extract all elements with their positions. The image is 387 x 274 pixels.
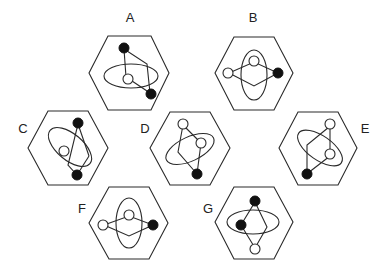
- open-circle: [250, 244, 260, 254]
- open-circle: [98, 220, 108, 230]
- ellipse-c: [42, 120, 99, 173]
- panel-b: B: [215, 10, 293, 110]
- panel-label-a: A: [126, 10, 135, 25]
- filled-circle: [250, 196, 260, 206]
- panel-c: C: [18, 111, 108, 185]
- filled-circle: [273, 68, 283, 78]
- filled-circle: [72, 170, 82, 180]
- filled-circle: [236, 220, 246, 230]
- open-circle: [178, 119, 188, 129]
- panel-label-f: F: [78, 201, 86, 216]
- filled-circle: [302, 169, 312, 179]
- hexagon-e: [279, 112, 357, 185]
- ellipse-e: [292, 123, 348, 172]
- open-circle: [325, 119, 335, 129]
- filled-circle: [192, 169, 202, 179]
- open-circle: [124, 210, 134, 220]
- open-circle: [196, 138, 206, 148]
- filled-circle: [73, 118, 83, 128]
- open-circle: [249, 56, 259, 66]
- filled-circle: [146, 89, 156, 99]
- panel-label-g: G: [203, 201, 213, 216]
- panel-g: G: [203, 187, 293, 259]
- open-circle: [223, 68, 233, 78]
- filled-circle: [119, 43, 129, 53]
- panel-a: A: [89, 10, 169, 110]
- ellipse-d: [161, 127, 218, 171]
- hexagon-figure: A B C D: [0, 0, 387, 274]
- panel-label-e: E: [361, 121, 370, 136]
- ellipse-f: [116, 198, 142, 248]
- open-circle: [59, 146, 69, 156]
- edge: [307, 127, 329, 173]
- panel-label-b: B: [249, 10, 258, 25]
- filled-circle: [148, 220, 158, 230]
- hexagon-d: [150, 112, 230, 185]
- open-circle: [123, 74, 133, 84]
- open-circle: [325, 149, 335, 159]
- panel-f: F: [78, 187, 168, 259]
- edge: [78, 124, 89, 156]
- edge: [178, 125, 197, 174]
- panel-label-d: D: [140, 121, 149, 136]
- ellipse-g: [227, 210, 279, 234]
- panel-e: E: [279, 112, 370, 185]
- panel-label-c: C: [18, 121, 27, 136]
- panel-d: D: [140, 112, 230, 185]
